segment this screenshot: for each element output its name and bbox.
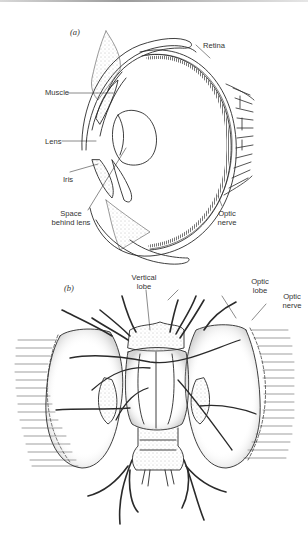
label-optic-nerve-b-line1: Optic	[277, 292, 307, 301]
label-optic-lobe-line1: Optic	[245, 277, 275, 286]
panel-b-tag: (b)	[64, 283, 74, 293]
label-optic-nerve-b-line2: nerve	[277, 301, 307, 310]
label-vertical-lobe-line1: Vertical	[124, 273, 164, 282]
label-optic-nerve-b: Optic nerve	[277, 292, 307, 310]
label-optic-lobe-line2: lobe	[245, 286, 275, 295]
label-space-behind-lens-line2: behind lens	[47, 218, 95, 227]
label-retina: Retina	[203, 41, 225, 50]
label-space-behind-lens-line1: Space	[47, 209, 95, 218]
label-muscle: Muscle	[45, 88, 69, 97]
label-optic-nerve-a: Optic nerve	[212, 209, 242, 227]
label-optic-lobe: Optic lobe	[245, 277, 275, 295]
panel-a-tag: (a)	[70, 27, 80, 37]
figure: (a) Retina Muscle Lens Iris Space behind…	[0, 0, 308, 547]
label-optic-nerve-a-line1: Optic	[212, 209, 242, 218]
label-optic-nerve-a-line2: nerve	[212, 218, 242, 227]
label-space-behind-lens: Space behind lens	[47, 209, 95, 227]
label-vertical-lobe-line2: lobe	[124, 282, 164, 291]
label-lens: Lens	[45, 137, 61, 146]
label-iris: Iris	[63, 175, 73, 184]
label-vertical-lobe: Vertical lobe	[124, 273, 164, 291]
